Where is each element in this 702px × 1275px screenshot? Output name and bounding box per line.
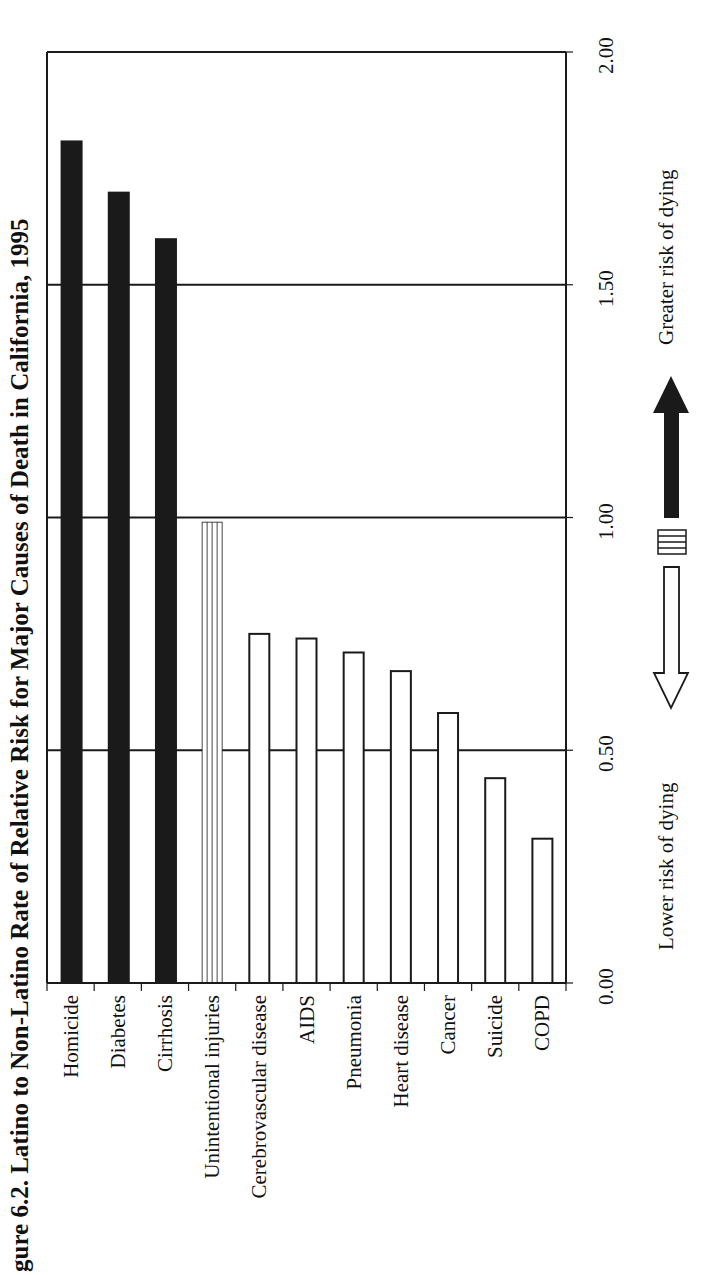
category-label: Suicide — [483, 995, 508, 1058]
y-tick-label: 0.00 — [594, 968, 619, 1005]
category-label: Homicide — [59, 995, 84, 1078]
bar-aids — [297, 639, 317, 983]
bars — [61, 140, 553, 983]
bar-unintentional-injuries — [202, 522, 222, 983]
legend-arrows — [653, 376, 689, 708]
category-label: Diabetes — [106, 995, 131, 1068]
bar-heart-disease — [391, 671, 411, 983]
category-label: Heart disease — [389, 995, 414, 1108]
lower-risk-label: Lower risk of dying — [654, 783, 679, 950]
bar-cerebrovascular-disease — [249, 634, 269, 983]
category-label: Cancer — [436, 995, 461, 1054]
y-tick-label: 1.50 — [594, 270, 619, 307]
equal-risk-striped-box-icon — [658, 530, 686, 554]
category-label: COPD — [530, 995, 555, 1051]
bar-cancer — [438, 713, 458, 983]
bar-homicide — [61, 140, 83, 983]
y-tick-label: 0.50 — [594, 736, 619, 773]
chart-title: gure 6.2. Latino to Non-Latino Rate of R… — [6, 219, 34, 1272]
greater-risk-arrow-icon — [653, 376, 689, 518]
category-label: Pneumonia — [342, 995, 367, 1090]
bar-diabetes — [108, 192, 130, 983]
category-label: AIDS — [295, 995, 320, 1044]
bar-pneumonia — [344, 652, 364, 983]
category-label: Unintentional injuries — [200, 995, 225, 1179]
y-tick-label: 2.00 — [594, 37, 619, 74]
bar-copd — [532, 839, 552, 983]
lower-risk-arrow-icon — [654, 567, 688, 708]
y-tick-label: 1.00 — [594, 503, 619, 540]
category-label: Cirrhosis — [153, 995, 178, 1072]
bar-suicide — [485, 778, 505, 983]
greater-risk-label: Greater risk of dying — [654, 169, 679, 345]
category-label: Cerebrovascular disease — [247, 995, 272, 1199]
bar-cirrhosis — [155, 238, 177, 983]
